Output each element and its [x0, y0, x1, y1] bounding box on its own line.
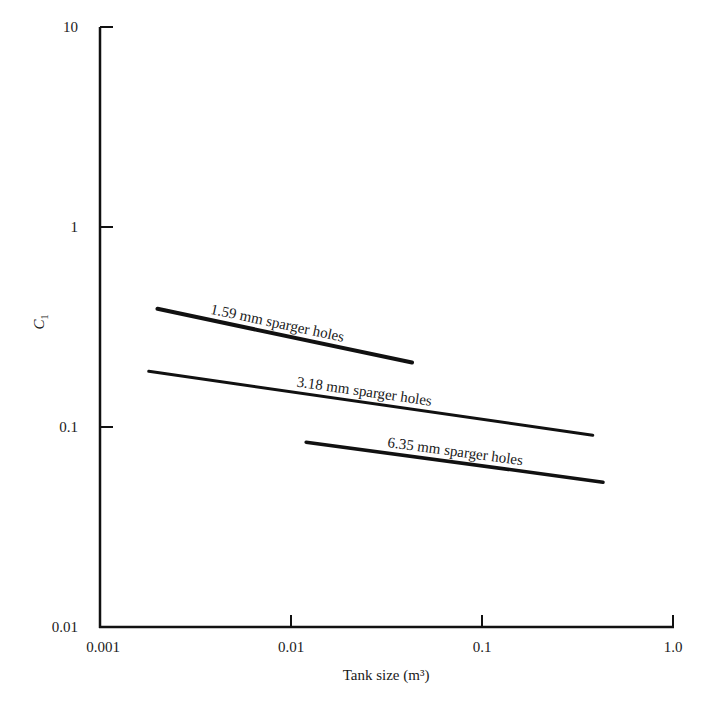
- chart: 0.010.1110 0.0010.010.11.0 Tank size (m³…: [0, 0, 705, 712]
- y-tick-label: 10: [63, 19, 78, 35]
- x-tick-label: 1.0: [664, 639, 683, 655]
- x-axis-title: Tank size (m³): [343, 667, 430, 684]
- y-axis-title: C1: [31, 314, 50, 329]
- series-layer: 1.59 mm sparger holes3.18 mm sparger hol…: [149, 301, 603, 482]
- svg-text:C1: C1: [31, 314, 50, 329]
- x-tick-label: 0.01: [278, 639, 304, 655]
- y-axis: 0.010.1110: [52, 19, 113, 635]
- x-tick-label: 0.1: [473, 639, 492, 655]
- x-axis: 0.0010.010.11.0: [86, 615, 682, 655]
- y-tick-label: 0.01: [52, 619, 78, 635]
- x-tick-label: 0.001: [86, 639, 120, 655]
- series-line: [149, 371, 593, 435]
- y-tick-label: 1: [71, 219, 79, 235]
- y-tick-label: 0.1: [59, 419, 78, 435]
